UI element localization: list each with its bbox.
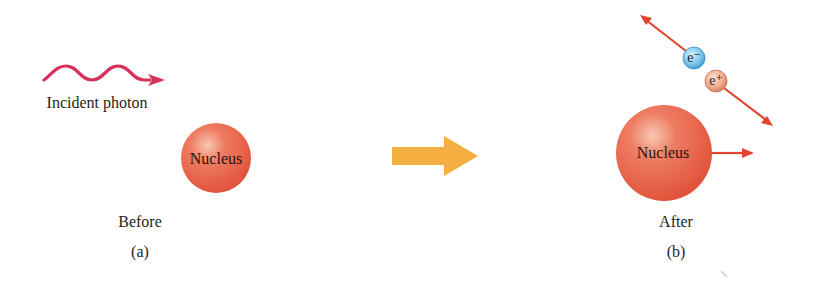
positron-trajectory-arrow-icon (724, 88, 773, 126)
electron-label: e⁻ (687, 49, 701, 66)
electron-trajectory-arrow-icon (640, 15, 686, 51)
pair-production-diagram (0, 0, 823, 293)
photon-wave-icon (44, 66, 165, 86)
right-arrow-icon (392, 136, 478, 176)
after-label: After (659, 213, 693, 231)
nucleus-recoil-arrow-icon (712, 148, 754, 158)
nucleus-after-label: Nucleus (637, 144, 689, 162)
nucleus-before-label: Nucleus (190, 150, 242, 168)
panel-a-label: (a) (131, 243, 149, 261)
scan-mark (721, 271, 727, 277)
panel-b-label: (b) (667, 243, 686, 261)
positron-label: e⁺ (709, 72, 723, 89)
incident-photon-label: Incident photon (47, 94, 148, 112)
before-label: Before (118, 213, 162, 231)
